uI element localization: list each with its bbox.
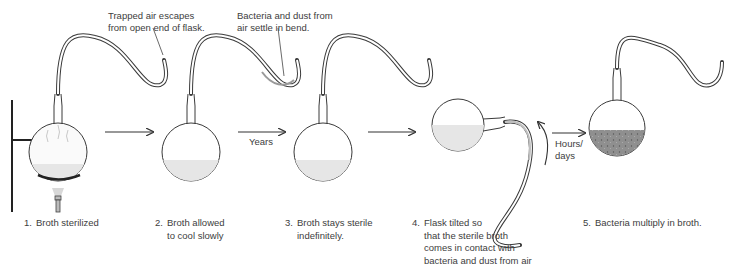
transition-label-years: Years <box>249 136 273 148</box>
step-text: Bacteria multiply in broth. <box>595 217 702 230</box>
contaminated-broth <box>589 130 645 158</box>
bunsen-burner <box>56 200 60 212</box>
flame-icon <box>52 188 64 196</box>
step-text: Broth allowed to cool slowly <box>167 217 225 242</box>
step-number: 2. <box>155 217 163 230</box>
tilt-arrow <box>538 122 548 165</box>
flask-5 <box>589 38 722 158</box>
step-number: 3. <box>285 217 293 230</box>
transition-label-hours-days: Hours/ days <box>555 138 583 162</box>
callout-line-bacteria <box>278 28 284 76</box>
callout-trapped-air: Trapped air escapes from open end of fla… <box>108 10 205 34</box>
step-3-caption: 3. Broth stays sterile indefinitely. <box>285 217 373 242</box>
callout-bacteria-dust: Bacteria and dust from air settle in ben… <box>237 10 333 34</box>
step-text: Broth stays sterile indefinitely. <box>297 217 373 242</box>
step-5-caption: 5. Bacteria multiply in broth. <box>583 217 702 230</box>
step-text: Broth sterilized <box>36 217 99 230</box>
step-1-caption: 1. Broth sterilized <box>24 217 99 230</box>
step-number: 5. <box>583 217 591 230</box>
flask-3 <box>294 35 431 185</box>
step-number: 4. <box>412 217 420 230</box>
step-4-caption: 4. Flask tilted so that the sterile brot… <box>412 217 532 267</box>
step-2-caption: 2. Broth allowed to cool slowly <box>155 217 225 242</box>
step-number: 1. <box>24 217 32 230</box>
flask-1 <box>12 28 166 212</box>
step-text: Flask tilted so that the sterile broth c… <box>424 217 532 267</box>
flask-2 <box>162 28 299 185</box>
